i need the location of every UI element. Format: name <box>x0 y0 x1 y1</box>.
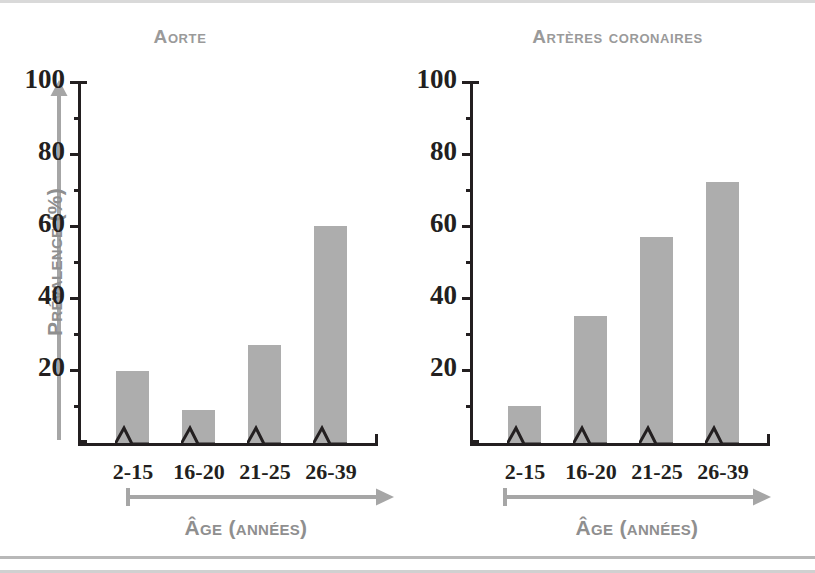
y-tick-label-100-right: 100 <box>417 66 458 93</box>
y-tick-label-20: 20 <box>38 354 65 381</box>
y-tick-label-40: 40 <box>38 282 65 309</box>
x-axis-arrow <box>126 484 394 510</box>
bottom-divider <box>0 556 815 559</box>
x-axis-notch-3 <box>247 425 281 446</box>
x-axis-notch-2 <box>181 425 215 446</box>
bar-coronaires-21-25 <box>640 237 673 443</box>
bar-coronaires-16-20 <box>574 316 607 443</box>
x-axis-notch-3-right <box>639 425 673 446</box>
x-axis-title-right: Âge (années) <box>503 516 771 540</box>
x-axis-title: Âge (années) <box>96 516 396 540</box>
x-axis-notch-4-right <box>705 425 739 446</box>
y-tick-label-80-right: 80 <box>430 138 457 165</box>
plot-area-arteres-coronaires: 100 80 60 40 20 <box>470 78 770 446</box>
y-tick-label-60: 60 <box>38 210 65 237</box>
x-axis-notch-1 <box>115 425 149 446</box>
x-category-label-4: 26-39 <box>282 459 380 485</box>
x-axis-notch-1-right <box>507 425 541 446</box>
panel-title-arteres-coronaires: Artères coronaires <box>420 26 815 48</box>
y-tick-label-80: 80 <box>38 138 65 165</box>
x-axis-notch-2-right <box>573 425 607 446</box>
plot-area-aorte: 100 80 60 40 20 <box>78 78 378 446</box>
x-axis-end-cap <box>375 434 378 446</box>
chart-panel-aorte: Aorte Prévalence (%) 100 80 <box>0 0 420 573</box>
panel-title-aorte: Aorte <box>0 26 390 48</box>
bar-coronaires-26-39 <box>706 182 739 443</box>
y-tick-label-60-right: 60 <box>430 210 457 237</box>
figure-container: Aorte Prévalence (%) 100 80 <box>0 0 815 573</box>
y-tick-label-40-right: 40 <box>430 282 457 309</box>
x-axis-notch-4 <box>313 425 347 446</box>
x-category-label-4-right: 26-39 <box>674 459 772 485</box>
y-tick-label-20-right: 20 <box>430 354 457 381</box>
x-axis-end-cap-right <box>767 434 770 446</box>
y-tick-label-100: 100 <box>25 66 66 93</box>
x-axis-arrow-right <box>503 484 771 510</box>
bar-aorte-26-39 <box>314 226 347 443</box>
